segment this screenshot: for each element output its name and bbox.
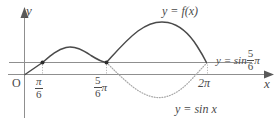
y-axis-label: y	[26, 4, 32, 17]
math-figure: y x O π 6 5 6 π 2π y = f(x) y = sin x y …	[0, 0, 280, 125]
fraction-5-over-6: 5 6	[94, 75, 102, 98]
point-marker-5pi-over-6	[105, 61, 109, 65]
curve-label-sin-x: y = sin x	[175, 103, 217, 115]
reference-label-prefix: y = sin	[216, 55, 247, 66]
curve-f-of-x-segment-large-arch	[107, 22, 207, 63]
curve-f-of-x-segment-rise	[25, 63, 43, 75]
curve-f-of-x-segment-small-arch	[43, 47, 107, 62]
pi-symbol: π	[102, 82, 108, 93]
x-tick-label-2pi: 2π	[198, 77, 210, 89]
reference-line-label: y = sin 5 6 π	[216, 49, 260, 72]
x-tick-label-pi-over-6: π 6	[35, 77, 43, 100]
fraction-numerator: π	[35, 76, 43, 88]
x-axis-label: x	[264, 77, 270, 90]
point-marker-pi-over-6	[41, 61, 45, 65]
fraction-denominator: 6	[94, 88, 102, 99]
fraction-pi-over-6: π 6	[35, 76, 43, 99]
fraction-numerator: 5	[247, 48, 255, 60]
fraction-denominator: 6	[247, 61, 255, 72]
fraction-5-over-6: 5 6	[247, 48, 255, 71]
fraction-denominator: 6	[35, 89, 43, 100]
curve-sin-x	[107, 63, 208, 98]
x-tick-label-5pi-over-6: 5 6 π	[94, 76, 107, 99]
origin-label: O	[12, 77, 21, 89]
fraction-numerator: 5	[94, 75, 102, 87]
pi-symbol: π	[254, 55, 260, 66]
curve-label-f-of-x: y = f(x)	[162, 5, 198, 17]
